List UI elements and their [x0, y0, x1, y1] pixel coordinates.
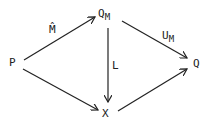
edge-label-l: L: [112, 60, 119, 71]
node-x-label: X: [102, 107, 109, 120]
arrow-qm-to-q: [122, 21, 187, 58]
edge-label-um-text: U: [162, 29, 169, 42]
commutative-diagram: P QM Q X M̂ UM L: [0, 0, 209, 125]
node-q: Q: [193, 58, 200, 69]
node-p: P: [9, 57, 16, 68]
edge-label-m-hat: M̂: [49, 24, 56, 35]
node-p-label: P: [9, 56, 16, 69]
arrow-p-to-x: [23, 69, 98, 110]
node-qm: QM: [98, 8, 110, 19]
edge-label-um: UM: [162, 30, 174, 41]
node-qm-subscript: M: [105, 12, 110, 22]
node-q-label: Q: [193, 57, 200, 70]
arrow-x-to-q: [118, 69, 187, 111]
node-x: X: [102, 108, 109, 119]
edge-label-l-text: L: [112, 59, 119, 72]
node-qm-label: Q: [98, 7, 105, 20]
arrow-p-to-qm: [24, 17, 95, 60]
edge-label-um-subscript: M: [169, 34, 174, 44]
edge-label-m-hat-text: M̂: [49, 23, 56, 36]
